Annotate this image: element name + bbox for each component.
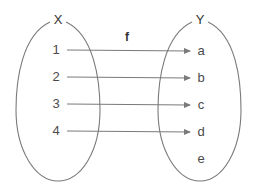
arrow-1-to-a: [67, 50, 190, 51]
function-label: f: [125, 30, 130, 44]
domain-element-2: 2: [52, 69, 59, 84]
domain-label: X: [54, 12, 63, 27]
domain-element-4: 4: [52, 123, 59, 138]
arrow-3-to-c: [67, 104, 190, 105]
codomain-element-e: e: [197, 151, 204, 166]
codomain-element-a: a: [197, 43, 205, 58]
function-mapping-diagram: X 1234 Y abcde f: [0, 0, 254, 194]
codomain-element-c: c: [198, 97, 205, 112]
codomain-element-d: d: [197, 124, 204, 139]
mapping-arrows: [67, 50, 190, 132]
codomain-set: Y abcde: [158, 12, 241, 181]
arrow-4-to-d: [67, 131, 190, 132]
domain-element-1: 1: [52, 42, 59, 57]
codomain-element-b: b: [197, 70, 204, 85]
domain-set: X 1234: [16, 12, 100, 181]
arrow-2-to-b: [67, 77, 190, 78]
domain-element-3: 3: [52, 96, 59, 111]
codomain-label: Y: [196, 12, 205, 27]
